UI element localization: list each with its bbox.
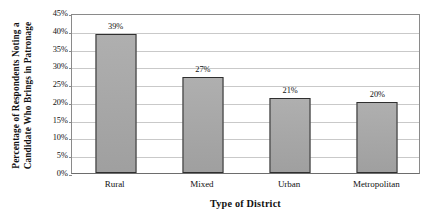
y-axis-tick-mark: [69, 86, 72, 87]
y-axis-tick-mark: [69, 157, 72, 158]
x-axis-tick-labels: RuralMixedUrbanMetropolitan: [71, 179, 420, 193]
y-axis-tick-mark: [69, 104, 72, 105]
y-axis-tick-label: 20%: [42, 99, 68, 107]
y-axis-tick-label: 25%: [42, 81, 68, 89]
bar-value-label: 20%: [370, 90, 385, 99]
x-axis-tick-label: Mixed: [190, 179, 214, 190]
y-axis-tick-mark: [69, 139, 72, 140]
x-axis-title: Type of District: [71, 198, 420, 210]
plot-area: 39%27%21%20%: [71, 14, 420, 174]
y-axis-tick-mark: [69, 122, 72, 123]
y-axis-tick-mark: [69, 68, 72, 69]
y-axis-tick-label: 15%: [42, 116, 68, 124]
y-axis-tick-label: 30%: [42, 63, 68, 71]
y-axis-title-line-2: Candidate Who Brings in Patronage: [23, 21, 35, 169]
y-axis-tick-label: 0%: [42, 170, 68, 178]
bar-group: 21%: [247, 15, 334, 173]
bar-chart: Percentage of Respondents Noting a Candi…: [0, 0, 439, 219]
x-axis-tick-label: Metropolitan: [353, 179, 400, 190]
bar[interactable]: [182, 77, 223, 173]
y-axis-tick-mark: [69, 15, 72, 16]
bar[interactable]: [95, 34, 136, 173]
y-axis-title: Percentage of Respondents Noting a Candi…: [0, 0, 46, 190]
y-axis-tick-mark: [69, 33, 72, 34]
bar-value-label: 21%: [282, 86, 297, 95]
y-axis-tick-labels: 0%5%10%15%20%25%30%35%40%45%: [42, 14, 68, 174]
y-axis-tick-label: 40%: [42, 28, 68, 36]
bar[interactable]: [357, 102, 398, 173]
x-axis-tick-label: Rural: [105, 179, 125, 190]
y-axis-tick-mark: [69, 175, 72, 176]
x-axis-tick-label: Urban: [278, 179, 301, 190]
bar-group: 27%: [159, 15, 246, 173]
y-axis-tick-label: 45%: [42, 10, 68, 18]
bar[interactable]: [270, 98, 311, 173]
y-axis-tick-label: 10%: [42, 134, 68, 142]
y-axis-tick-mark: [69, 51, 72, 52]
bar-value-label: 27%: [195, 65, 210, 74]
bar-group: 20%: [334, 15, 421, 173]
y-axis-tick-label: 35%: [42, 45, 68, 53]
bar-group: 39%: [72, 15, 159, 173]
bar-value-label: 39%: [108, 22, 123, 31]
y-axis-title-line-1: Percentage of Respondents Noting a: [12, 21, 24, 169]
y-axis-tick-label: 5%: [42, 152, 68, 160]
bars-layer: 39%27%21%20%: [72, 15, 419, 173]
